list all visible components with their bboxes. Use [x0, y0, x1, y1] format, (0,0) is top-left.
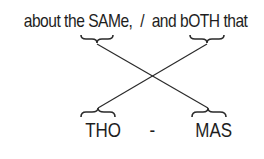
brace-over-mas-icon — [192, 108, 226, 117]
bottom-word-mas: MAS — [195, 119, 232, 141]
crossed-bracket-diagram: about the SAMe, / and bOTH that THO - MA… — [0, 0, 264, 159]
bottom-word-tho: THO — [85, 119, 121, 141]
brace-under-same-icon — [81, 35, 113, 43]
brace-over-tho-icon — [81, 108, 115, 117]
bottom-separator: - — [150, 119, 156, 141]
brace-under-both-icon — [190, 35, 224, 43]
